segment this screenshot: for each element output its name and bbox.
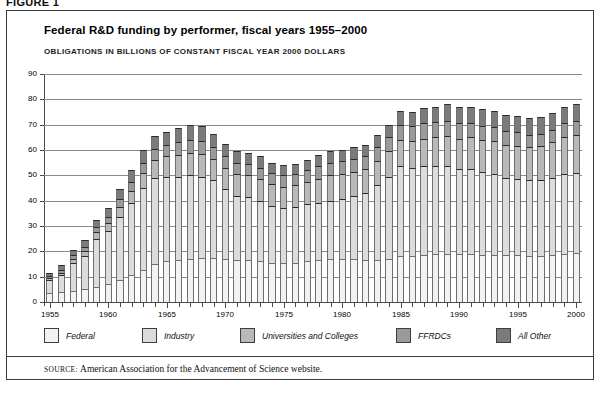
gridline-70: [44, 125, 582, 126]
legend-item-federal[interactable]: Federal: [44, 328, 95, 343]
bar-segment-1960-industry: [105, 231, 112, 284]
bar-segment-1994-ffrdcs: [502, 131, 509, 145]
y-axis-label-50: 50: [28, 171, 37, 179]
legend-label: All Other: [518, 331, 551, 341]
bar-1974[interactable]: [268, 74, 275, 302]
bar-1977[interactable]: [304, 74, 311, 302]
bar-1993[interactable]: [491, 74, 498, 302]
legend-swatch-icon: [44, 328, 59, 343]
y-tick-50: [40, 175, 44, 176]
bar-1999[interactable]: [561, 74, 568, 302]
bar-1981[interactable]: [350, 74, 357, 302]
bar-1971[interactable]: [233, 74, 240, 302]
bar-1961[interactable]: [116, 74, 123, 302]
bar-segment-2000-federal: [573, 253, 580, 302]
bar-1984[interactable]: [385, 74, 392, 302]
bar-segment-1996-ffrdcs: [526, 135, 533, 148]
bar-segment-1981-federal: [350, 259, 357, 302]
x-tick-1956: [62, 303, 63, 307]
bar-segment-1991-all-other: [467, 107, 474, 123]
bar-1992[interactable]: [479, 74, 486, 302]
bar-segment-1964-ffrdcs: [151, 149, 158, 160]
bar-1988[interactable]: [432, 74, 439, 302]
bar-segment-1961-ffrdcs: [116, 199, 123, 207]
bar-2000[interactable]: [573, 74, 580, 302]
bar-1979[interactable]: [327, 74, 334, 302]
bar-segment-1961-universities-and-colleges: [116, 207, 123, 217]
bar-1982[interactable]: [362, 74, 369, 302]
legend-label: Universities and Colleges: [262, 331, 358, 341]
bar-segment-1971-federal: [233, 260, 240, 302]
bar-1960[interactable]: [105, 74, 112, 302]
bar-segment-1987-federal: [420, 255, 427, 302]
bar-1955[interactable]: [46, 74, 53, 302]
bar-segment-1963-universities-and-colleges: [140, 173, 147, 188]
bar-1959[interactable]: [93, 74, 100, 302]
legend-item-universities-and-colleges[interactable]: Universities and Colleges: [240, 328, 358, 343]
bar-1968[interactable]: [198, 74, 205, 302]
bar-1991[interactable]: [467, 74, 474, 302]
bar-1978[interactable]: [315, 74, 322, 302]
x-tick-1996: [529, 303, 530, 307]
bar-segment-1956-ffrdcs: [58, 270, 65, 273]
bar-1962[interactable]: [128, 74, 135, 302]
bar-segment-1980-industry: [339, 199, 346, 259]
legend-item-ffrdcs[interactable]: FFRDCs: [396, 328, 451, 343]
bar-1964[interactable]: [151, 74, 158, 302]
bar-1985[interactable]: [397, 74, 404, 302]
bar-segment-1978-industry: [315, 203, 322, 260]
bar-1973[interactable]: [257, 74, 264, 302]
bar-1989[interactable]: [444, 74, 451, 302]
chart-subtitle: OBLIGATIONS IN BILLIONS OF CONSTANT FISC…: [44, 47, 345, 56]
bar-1997[interactable]: [537, 74, 544, 302]
bar-segment-1979-industry: [327, 201, 334, 259]
bar-segment-1981-universities-and-colleges: [350, 172, 357, 196]
bar-1987[interactable]: [420, 74, 427, 302]
bar-1990[interactable]: [456, 74, 463, 302]
bar-1958[interactable]: [81, 74, 88, 302]
gridline-40: [44, 201, 582, 202]
bar-1966[interactable]: [175, 74, 182, 302]
bar-segment-1990-ffrdcs: [456, 123, 463, 138]
bar-1995[interactable]: [514, 74, 521, 302]
gridline-60: [44, 150, 582, 151]
bar-segment-1979-all-other: [327, 151, 334, 162]
bar-1980[interactable]: [339, 74, 346, 302]
bar-1998[interactable]: [549, 74, 556, 302]
bar-1976[interactable]: [292, 74, 299, 302]
bar-1996[interactable]: [526, 74, 533, 302]
bar-segment-1971-ffrdcs: [233, 163, 240, 174]
bar-segment-1982-universities-and-colleges: [362, 169, 369, 193]
x-tick-1988: [436, 303, 437, 307]
bar-segment-1983-federal: [374, 260, 381, 302]
bar-segment-1982-industry: [362, 193, 369, 260]
bar-segment-1956-federal: [58, 292, 65, 302]
bar-segment-1975-ffrdcs: [280, 175, 287, 186]
bar-1986[interactable]: [409, 74, 416, 302]
bar-1975[interactable]: [280, 74, 287, 302]
bar-1957[interactable]: [70, 74, 77, 302]
x-tick-1979: [331, 303, 332, 307]
legend-item-industry[interactable]: Industry: [142, 328, 194, 343]
x-tick-2000: [576, 303, 577, 308]
bar-1956[interactable]: [58, 74, 65, 302]
bar-segment-1998-federal: [549, 255, 556, 302]
bar-1965[interactable]: [163, 74, 170, 302]
x-axis-label-1960: 1960: [99, 310, 117, 319]
bar-1967[interactable]: [187, 74, 194, 302]
bar-1970[interactable]: [222, 74, 229, 302]
bar-1969[interactable]: [210, 74, 217, 302]
bar-1963[interactable]: [140, 74, 147, 302]
bar-1994[interactable]: [502, 74, 509, 302]
legend-item-all-other[interactable]: All Other: [496, 328, 551, 343]
x-tick-1958: [85, 303, 86, 307]
bar-1983[interactable]: [374, 74, 381, 302]
bar-segment-1987-universities-and-colleges: [420, 139, 427, 167]
bar-segment-1997-ffrdcs: [537, 134, 544, 147]
x-tick-1989: [447, 303, 448, 307]
bar-1972[interactable]: [245, 74, 252, 302]
bar-segment-2000-all-other: [573, 104, 580, 120]
bar-segment-1968-industry: [198, 177, 205, 258]
x-tick-1959: [97, 303, 98, 307]
bar-segment-1973-ffrdcs: [257, 168, 264, 179]
